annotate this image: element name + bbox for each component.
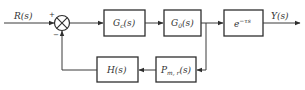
output-signal-label: Y(s): [271, 11, 289, 21]
minus-sign: −: [53, 31, 59, 39]
plant-label: G0(s): [171, 18, 194, 29]
controller-label: Gc(s): [113, 18, 136, 29]
plus-sign: +: [49, 11, 55, 19]
summing-junction: [55, 16, 70, 31]
feedback-signal-line: [62, 31, 97, 70]
block-diagram: R(s) + − Gc(s) G0(s) e−τs Y(s) Pm, r(s) …: [0, 0, 305, 90]
feedback-label: H(s): [106, 65, 127, 75]
input-signal-label: R(s): [13, 11, 33, 21]
